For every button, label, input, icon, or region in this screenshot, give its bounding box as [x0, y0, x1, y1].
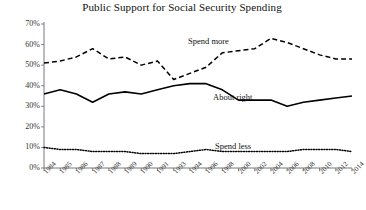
- series-line-about-right: [44, 84, 352, 107]
- series-label-spend-more: Spend more: [188, 36, 229, 46]
- series-label-spend-less: Spend less: [215, 141, 251, 151]
- chart-series-lines: [44, 38, 352, 153]
- series-label-about-right: About right: [213, 92, 252, 102]
- series-line-spend-less: [44, 147, 352, 153]
